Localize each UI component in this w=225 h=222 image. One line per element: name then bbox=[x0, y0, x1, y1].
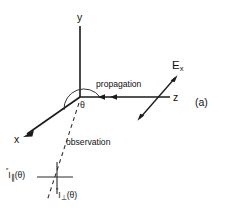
propagation-arrowhead-2 bbox=[110, 94, 117, 100]
e-field-label: Ex bbox=[172, 60, 183, 72]
e-field-vector-line bbox=[140, 78, 175, 118]
intensity-parallel-label: ″I∥(θ) bbox=[6, 169, 25, 179]
intensity-parallel-argument: (θ) bbox=[15, 170, 26, 180]
observation-label: observation bbox=[66, 138, 110, 147]
propagation-label: propagation bbox=[96, 80, 141, 89]
theta-angle-label: θ bbox=[80, 101, 85, 110]
z-axis-label: z bbox=[173, 92, 178, 103]
intensity-perpendicular-label: ″I⊥(θ) bbox=[56, 189, 77, 199]
e-field-symbol: E bbox=[172, 59, 180, 71]
propagation-arrowhead-1 bbox=[98, 94, 105, 100]
panel-label: (a) bbox=[195, 97, 208, 108]
intensity-perpendicular-subscript: ⊥ bbox=[61, 194, 67, 201]
figure-container: y z x propagation observation θ Ex ″I∥(θ… bbox=[0, 0, 225, 222]
intensity-parallel-subscript: ∥ bbox=[11, 172, 15, 182]
intensity-perpendicular-prefix: ″ bbox=[56, 187, 58, 194]
y-axis-label: y bbox=[77, 12, 82, 23]
observation-dashed-line bbox=[47, 103, 79, 201]
diagram-canvas bbox=[0, 0, 225, 222]
x-axis-line bbox=[27, 97, 80, 134]
intensity-perpendicular-argument: (θ) bbox=[67, 190, 78, 200]
x-axis-arrowhead bbox=[23, 130, 34, 137]
e-field-subscript: x bbox=[180, 64, 184, 73]
x-axis-label: x bbox=[14, 134, 19, 145]
intensity-parallel-prefix: ″ bbox=[6, 167, 8, 174]
